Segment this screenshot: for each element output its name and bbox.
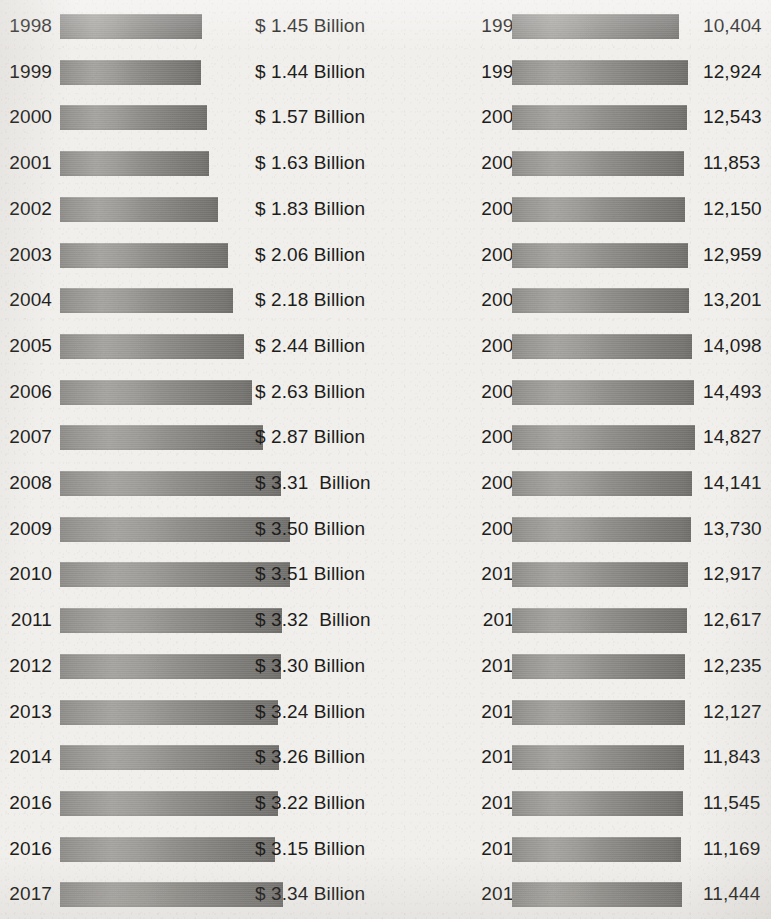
bar xyxy=(60,882,283,907)
chart-row: 200312,959 xyxy=(440,235,771,275)
chart-row: 201312,127 xyxy=(440,692,771,732)
value-label: $ 3.31 Billion xyxy=(255,463,371,503)
value-label: 12,959 xyxy=(703,235,762,275)
bar xyxy=(512,791,683,816)
bar xyxy=(60,654,281,679)
bar-track xyxy=(512,243,712,268)
chart-row: 200714,827 xyxy=(440,417,771,457)
value-label: 12,127 xyxy=(703,692,762,732)
chart-row: 2010$ 3.51 Billion xyxy=(0,554,440,594)
value-label: $ 1.44 Billion xyxy=(255,52,365,92)
value-label: 11,169 xyxy=(703,829,760,869)
value-label: 12,235 xyxy=(703,646,762,686)
value-label: 12,543 xyxy=(703,97,762,137)
value-label: 11,843 xyxy=(703,737,760,777)
bar-track xyxy=(512,562,712,587)
bar-track xyxy=(512,608,712,633)
bar-track xyxy=(512,14,712,39)
chart-row: 2016$ 3.22 Billion xyxy=(0,783,440,823)
year-label: 2012 xyxy=(0,646,52,686)
year-label: 2001 xyxy=(0,143,52,183)
chart-row: 200413,201 xyxy=(440,280,771,320)
bar xyxy=(60,288,233,313)
chart-row: 2011$ 3.32 Billion xyxy=(0,600,440,640)
value-label: 11,444 xyxy=(703,874,760,914)
year-label: 2002 xyxy=(0,189,52,229)
chart-row: 201212,235 xyxy=(440,646,771,686)
chart-row: 2002$ 1.83 Billion xyxy=(0,189,440,229)
year-label: 2010 xyxy=(0,554,52,594)
bar xyxy=(60,608,282,633)
value-label: $ 2.87 Billion xyxy=(255,417,365,457)
chart-row: 2008$ 3.31 Billion xyxy=(0,463,440,503)
chart-row: 2006$ 2.63 Billion xyxy=(0,372,440,412)
year-label: 2009 xyxy=(0,509,52,549)
bar xyxy=(512,882,682,907)
bar xyxy=(512,471,692,496)
bar-track xyxy=(512,882,712,907)
year-label: 2005 xyxy=(0,326,52,366)
value-label: $ 3.34 Billion xyxy=(255,874,365,914)
value-label: $ 1.83 Billion xyxy=(255,189,365,229)
value-label: $ 2.63 Billion xyxy=(255,372,365,412)
chart-row: 200111,853 xyxy=(440,143,771,183)
value-label: 14,493 xyxy=(703,372,762,412)
bar xyxy=(60,791,278,816)
bar xyxy=(512,517,691,542)
value-label: $ 1.63 Billion xyxy=(255,143,365,183)
revenue-bar-chart: 1998$ 1.45 Billion1999$ 1.44 Billion2000… xyxy=(0,0,440,919)
bar xyxy=(60,14,202,39)
chart-row: 2009$ 3.50 Billion xyxy=(0,509,440,549)
year-label: 2016 xyxy=(0,829,52,869)
bar xyxy=(512,380,694,405)
value-label: 11,853 xyxy=(703,143,760,183)
value-label: 12,150 xyxy=(703,189,762,229)
chart-row: 2017$ 3.34 Billion xyxy=(0,874,440,914)
year-label: 1998 xyxy=(0,6,52,46)
chart-row: 2000$ 1.57 Billion xyxy=(0,97,440,137)
bar-track xyxy=(512,471,712,496)
bar-track xyxy=(512,288,712,313)
bar xyxy=(512,425,695,450)
year-label: 2004 xyxy=(0,280,52,320)
bar xyxy=(512,608,687,633)
bar-track xyxy=(512,151,712,176)
bar-track xyxy=(512,334,712,359)
chart-row: 201711,444 xyxy=(440,874,771,914)
chart-row: 200614,493 xyxy=(440,372,771,412)
chart-row: 2012$ 3.30 Billion xyxy=(0,646,440,686)
bar xyxy=(60,197,218,222)
chart-row: 1998$ 1.45 Billion xyxy=(0,6,440,46)
bar xyxy=(512,562,688,587)
year-label: 2007 xyxy=(0,417,52,457)
value-label: 14,098 xyxy=(703,326,762,366)
chart-row: 200212,150 xyxy=(440,189,771,229)
value-label: 13,730 xyxy=(703,509,762,549)
bar xyxy=(60,471,281,496)
bar-track xyxy=(512,791,712,816)
chart-row: 2016$ 3.15 Billion xyxy=(0,829,440,869)
chart-sheet: 1998$ 1.45 Billion1999$ 1.44 Billion2000… xyxy=(0,0,771,919)
chart-row: 201411,843 xyxy=(440,737,771,777)
bar xyxy=(512,700,685,725)
chart-row: 200913,730 xyxy=(440,509,771,549)
value-label: $ 1.45 Billion xyxy=(255,6,365,46)
bar xyxy=(60,837,275,862)
value-label: 12,924 xyxy=(703,52,762,92)
bar-track xyxy=(512,60,712,85)
chart-row: 200012,543 xyxy=(440,97,771,137)
value-label: 12,617 xyxy=(703,600,762,640)
value-label: $ 3.22 Billion xyxy=(255,783,365,823)
bar xyxy=(512,60,688,85)
chart-row: 200814,141 xyxy=(440,463,771,503)
value-label: $ 3.51 Billion xyxy=(255,554,365,594)
year-label: 2014 xyxy=(0,737,52,777)
bar xyxy=(60,243,228,268)
year-label: 2003 xyxy=(0,235,52,275)
bar xyxy=(512,288,689,313)
year-label: 2006 xyxy=(0,372,52,412)
value-label: $ 3.24 Billion xyxy=(255,692,365,732)
chart-row: 199912,924 xyxy=(440,52,771,92)
value-label: $ 3.30 Billion xyxy=(255,646,365,686)
bar xyxy=(512,334,692,359)
